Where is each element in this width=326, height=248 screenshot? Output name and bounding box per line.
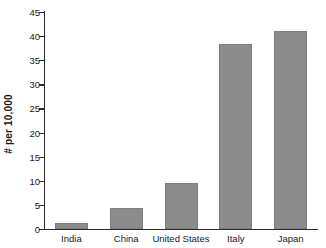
y-tick-label: 45 [29, 7, 40, 18]
y-axis-title: # per 10,000 [0, 0, 16, 248]
bar-united-states[interactable] [165, 183, 198, 229]
y-tick-label: 40 [29, 31, 40, 42]
x-label-japan: Japan [278, 233, 304, 244]
bar-italy[interactable] [219, 44, 252, 229]
x-label-united-states: United States [152, 233, 209, 244]
y-tick-label: 0 [35, 224, 40, 235]
bar-china[interactable] [110, 208, 143, 229]
x-label-india: India [61, 233, 82, 244]
bar-chart: # per 10,000 051015202530354045 IndiaChi… [0, 0, 326, 248]
y-tick-label: 20 [29, 127, 40, 138]
y-tick-label: 30 [29, 79, 40, 90]
x-label-italy: Italy [227, 233, 244, 244]
y-tick-label: 10 [29, 175, 40, 186]
y-tick-label: 25 [29, 103, 40, 114]
bar-india[interactable] [55, 223, 88, 229]
y-tick-label: 35 [29, 55, 40, 66]
y-tick-label: 15 [29, 151, 40, 162]
bar-japan[interactable] [274, 31, 307, 229]
x-label-china: China [114, 233, 139, 244]
y-tick-label: 5 [35, 199, 40, 210]
plot-area: 051015202530354045 [44, 12, 318, 229]
x-axis-line [44, 229, 318, 230]
